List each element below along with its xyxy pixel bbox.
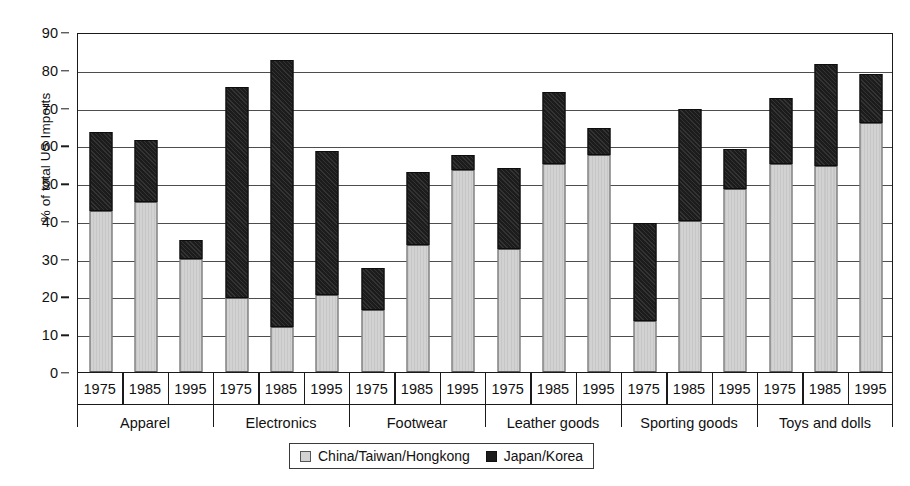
y-tick-label-40: 40 xyxy=(42,215,58,230)
x-tick-label-year: 1985 xyxy=(122,373,167,405)
y-tick-mark-0 xyxy=(61,372,69,373)
bar-segment-china-taiwan-hongkong xyxy=(497,249,520,372)
x-axis-category-separator xyxy=(485,405,486,427)
bar-slot xyxy=(395,34,440,372)
bar-toys-and-dolls-1985 xyxy=(814,64,837,372)
legend-swatch-icon xyxy=(300,451,311,462)
x-axis-year-band: 1975198519951975198519951975198519951975… xyxy=(77,373,893,405)
x-axis-category-label: Apparel xyxy=(77,405,213,441)
bar-slot xyxy=(123,34,168,372)
x-axis-year-separator xyxy=(848,373,849,405)
x-axis-category-separator xyxy=(349,405,350,427)
x-tick-label-year: 1995 xyxy=(440,373,485,405)
x-axis-category-separator xyxy=(213,405,214,427)
bar-apparel-1975 xyxy=(89,132,112,372)
bar-segment-china-taiwan-hongkong xyxy=(225,298,248,372)
y-axis-tick-labels: 0102030405060708090 xyxy=(0,0,77,486)
x-axis-category-label: Footwear xyxy=(349,405,485,441)
x-axis-year-separator xyxy=(394,373,395,405)
bar-slot xyxy=(441,34,486,372)
bar-segment-japan-korea xyxy=(270,60,293,326)
x-tick-label-year: 1975 xyxy=(757,373,802,405)
x-tick-label-year: 1975 xyxy=(621,373,666,405)
y-tick-label-30: 30 xyxy=(42,252,58,267)
bar-segment-japan-korea xyxy=(89,132,112,211)
bar-segment-china-taiwan-hongkong xyxy=(270,327,293,372)
x-axis-year-separator xyxy=(258,373,259,405)
x-axis-year-separator xyxy=(621,373,622,405)
y-tick-label-20: 20 xyxy=(42,290,58,305)
y-tick-label-70: 70 xyxy=(42,101,58,116)
y-tick-label-0: 0 xyxy=(50,366,58,381)
bar-segment-japan-korea xyxy=(452,155,475,170)
bar-slot xyxy=(622,34,667,372)
stacked-bar-chart: % of total US Imports 010203040506070809… xyxy=(0,0,910,486)
x-axis-category-label: Leather goods xyxy=(485,405,621,441)
bar-segment-japan-korea xyxy=(316,151,339,295)
y-tick-mark-60 xyxy=(61,146,69,147)
y-tick-mark-20 xyxy=(61,297,69,298)
x-tick-label-year: 1995 xyxy=(304,373,349,405)
x-tick-label-year: 1975 xyxy=(485,373,530,405)
bar-sporting-goods-1995 xyxy=(724,149,747,372)
x-tick-label-year: 1995 xyxy=(848,373,893,405)
bar-leather-goods-1975 xyxy=(497,168,520,372)
x-axis-category-label: Sporting goods xyxy=(621,405,757,441)
bar-segment-japan-korea xyxy=(724,149,747,189)
bar-slot xyxy=(849,34,894,372)
bar-sporting-goods-1985 xyxy=(678,109,701,372)
bar-segment-japan-korea xyxy=(814,64,837,166)
x-axis-year-separator xyxy=(213,373,214,405)
y-tick-mark-30 xyxy=(61,259,69,260)
y-tick-label-10: 10 xyxy=(42,328,58,343)
x-tick-label-year: 1975 xyxy=(77,373,122,405)
bar-apparel-1995 xyxy=(180,240,203,372)
y-tick-mark-10 xyxy=(61,335,69,336)
x-axis-category-band: ApparelElectronicsFootwearLeather goodsS… xyxy=(77,405,893,441)
bar-slot xyxy=(803,34,848,372)
bar-slot xyxy=(259,34,304,372)
bar-slot xyxy=(350,34,395,372)
bar-segment-japan-korea xyxy=(588,128,611,154)
x-axis-year-separator xyxy=(440,373,441,405)
bar-footwear-1995 xyxy=(452,155,475,372)
x-axis-year-separator xyxy=(576,373,577,405)
x-tick-label-year: 1975 xyxy=(213,373,258,405)
bar-segment-china-taiwan-hongkong xyxy=(633,321,656,372)
bar-slot xyxy=(486,34,531,372)
bar-segment-china-taiwan-hongkong xyxy=(316,295,339,372)
legend-swatch-icon xyxy=(486,451,497,462)
y-tick-label-80: 80 xyxy=(42,64,58,79)
bar-toys-and-dolls-1995 xyxy=(860,74,883,372)
bar-segment-japan-korea xyxy=(542,92,565,164)
x-axis-year-separator xyxy=(304,373,305,405)
bar-segment-china-taiwan-hongkong xyxy=(860,123,883,372)
x-tick-label-year: 1975 xyxy=(349,373,394,405)
bar-footwear-1985 xyxy=(406,172,429,372)
x-axis-year-separator xyxy=(530,373,531,405)
bar-slot xyxy=(758,34,803,372)
legend-item: China/Taiwan/Hongkong xyxy=(300,448,470,464)
y-tick-label-60: 60 xyxy=(42,139,58,154)
bar-segment-japan-korea xyxy=(406,172,429,246)
x-tick-label-year: 1995 xyxy=(576,373,621,405)
bar-electronics-1985 xyxy=(270,60,293,372)
bar-electronics-1995 xyxy=(316,151,339,372)
bar-segment-china-taiwan-hongkong xyxy=(542,164,565,372)
bar-apparel-1985 xyxy=(134,140,157,372)
bar-segment-china-taiwan-hongkong xyxy=(361,310,384,372)
y-tick-mark-50 xyxy=(61,183,69,184)
bar-segment-japan-korea xyxy=(678,109,701,220)
bar-footwear-1975 xyxy=(361,268,384,372)
y-tick-mark-40 xyxy=(61,221,69,222)
x-tick-label-year: 1985 xyxy=(258,373,303,405)
x-axis-year-separator xyxy=(802,373,803,405)
x-tick-label-year: 1985 xyxy=(802,373,847,405)
bar-slot xyxy=(667,34,712,372)
chart-legend: China/Taiwan/HongkongJapan/Korea xyxy=(289,443,594,469)
y-tick-label-50: 50 xyxy=(42,177,58,192)
bar-segment-japan-korea xyxy=(361,268,384,310)
bar-slot xyxy=(531,34,576,372)
x-tick-label-year: 1985 xyxy=(666,373,711,405)
legend-label: Japan/Korea xyxy=(504,448,583,464)
